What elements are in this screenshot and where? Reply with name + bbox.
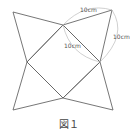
- triangle-bottom-left: [13, 62, 63, 110]
- label-inner-edge: 10cm: [64, 42, 81, 49]
- triangle-right: [63, 10, 112, 62]
- label-right-edge: 10cm: [113, 33, 130, 40]
- net-diagram: [0, 0, 138, 135]
- triangle-bottom-right: [63, 62, 113, 110]
- label-top-edge: 10cm: [80, 6, 97, 13]
- inner-square: [27, 25, 100, 98]
- figure-caption: 図１: [0, 116, 138, 131]
- triangle-top: [13, 12, 63, 62]
